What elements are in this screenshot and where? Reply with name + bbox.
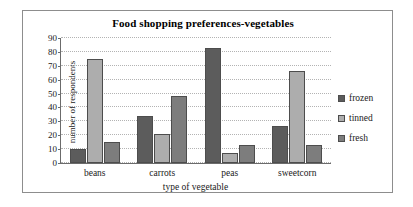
chart-title: Food shopping preferences-vegetables [63,17,343,29]
bar[interactable] [171,96,187,163]
bar-group [196,38,264,163]
y-tick-label: 30 [48,116,57,126]
bar[interactable] [87,59,103,163]
x-tick-label: peas [221,168,238,178]
bar[interactable] [222,153,238,163]
bar-group [129,38,197,163]
bar[interactable] [289,71,305,163]
y-tick-label: 90 [48,33,57,43]
y-tick-label: 40 [48,102,57,112]
chart-frame: Food shopping preferences-vegetables num… [22,10,393,193]
legend-item[interactable]: tinned [338,113,373,123]
legend-swatch-icon [338,95,345,102]
x-tick-label: carrots [149,168,175,178]
legend-label: frozen [349,93,373,103]
chart-legend: frozentinnedfresh [338,93,373,143]
legend-label: fresh [349,133,368,143]
bar[interactable] [137,116,153,163]
legend-item[interactable]: frozen [338,93,373,103]
bar[interactable] [70,149,86,163]
y-tick-label: 20 [48,130,57,140]
x-tick-label: beans [84,168,106,178]
bar[interactable] [306,145,322,163]
y-tick-label: 0 [53,158,58,168]
bar[interactable] [104,142,120,163]
y-tick-label: 70 [48,61,57,71]
bar-group [264,38,332,163]
bar-group [61,38,129,163]
bar[interactable] [205,48,221,163]
plot-area: 0102030405060708090 beanscarrotspeasswee… [60,38,331,164]
y-tick-label: 60 [48,75,57,85]
legend-swatch-icon [338,115,345,122]
bar[interactable] [154,134,170,163]
y-tick-label: 10 [48,144,57,154]
bar[interactable] [272,126,288,164]
bar[interactable] [239,145,255,163]
bars-layer [61,38,331,163]
legend-label: tinned [349,113,373,123]
y-tick-mark [58,163,61,164]
y-tick-label: 50 [48,89,57,99]
y-tick-label: 80 [48,47,57,57]
legend-swatch-icon [338,135,345,142]
legend-item[interactable]: fresh [338,133,373,143]
x-tick-label: sweetcorn [278,168,317,178]
x-axis-title: type of vegetable [60,182,331,192]
